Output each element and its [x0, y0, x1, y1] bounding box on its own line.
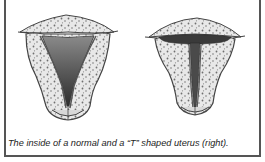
figure-caption: The inside of a normal and a “T” shaped … [8, 138, 258, 148]
normal-uterus-illustration [18, 10, 118, 125]
t-shaped-uterus-illustration [145, 15, 245, 120]
